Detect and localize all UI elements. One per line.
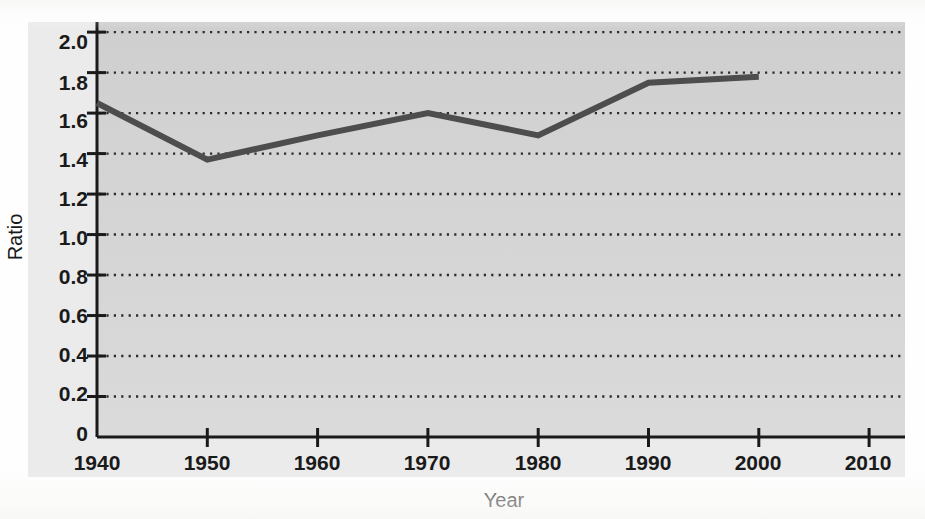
x-tick-label-1950: 1950 (184, 451, 231, 474)
x-tick-label-2010: 2010 (845, 451, 892, 474)
y-tick-label-0-2: 0.2 (59, 382, 88, 405)
y-tick-label-1-6: 1.6 (59, 109, 88, 132)
x-tick-label-1990: 1990 (625, 451, 672, 474)
line-chart: 2.0 1.8 1.6 1.4 1.2 1.0 0.8 0.6 0.4 0.2 … (0, 0, 925, 519)
x-tick-label-1960: 1960 (294, 451, 341, 474)
y-tick-label-0-6: 0.6 (59, 304, 88, 327)
x-tick-label-1970: 1970 (404, 451, 451, 474)
x-tick-label-1980: 1980 (515, 451, 562, 474)
plot-area-scan-tint (97, 22, 905, 437)
y-tick-label-0-8: 0.8 (59, 265, 89, 288)
y-tick-label-1-4: 1.4 (59, 148, 89, 171)
y-tick-label-1-8: 1.8 (59, 71, 89, 94)
y-tick-label-0-4: 0.4 (59, 343, 89, 366)
y-tick-label-1-2: 1.2 (59, 187, 88, 210)
x-axis-tick-labels: 1940 1950 1960 1970 1980 1990 2000 2010 (74, 451, 892, 474)
y-axis-title: Ratio (4, 214, 26, 261)
x-axis-title: Year (484, 489, 525, 511)
y-axis-tick-labels: 2.0 1.8 1.6 1.4 1.2 1.0 0.8 0.6 0.4 0.2 … (59, 30, 89, 445)
y-tick-label-1-0: 1.0 (59, 226, 88, 249)
chart-figure: 2.0 1.8 1.6 1.4 1.2 1.0 0.8 0.6 0.4 0.2 … (0, 0, 925, 519)
y-tick-label-0: 0 (76, 422, 88, 445)
x-tick-label-1940: 1940 (74, 451, 121, 474)
y-tick-label-2-0: 2.0 (59, 30, 88, 53)
x-tick-label-2000: 2000 (735, 451, 782, 474)
